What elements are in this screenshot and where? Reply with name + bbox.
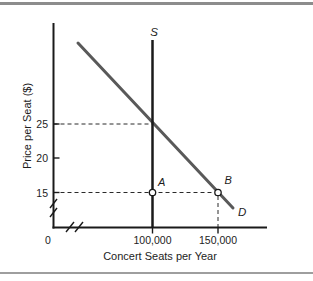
demand-curve-label: D [238,206,246,218]
point-a-marker [149,189,155,195]
point-b-marker [215,189,221,195]
demand-curve [78,43,233,208]
y-tick-label-15: 15 [36,187,48,199]
supply-curve-label: S [150,26,158,38]
x-tick-label-150000: 150,000 [199,234,237,246]
point-a-label: A [157,176,165,188]
supply-demand-chart: 25 20 15 0 100,000 150,000 Price per Sea… [0,0,313,281]
y-tick-label-25: 25 [36,118,48,130]
y-axis-title: Price per Seat ($) [21,83,33,169]
x-axis-title: Concert Seats per Year [103,250,217,262]
y-tick-label-20: 20 [36,152,48,164]
x-tick-label-100000: 100,000 [134,234,172,246]
point-b-label: B [225,174,232,186]
figure-panel: 25 20 15 0 100,000 150,000 Price per Sea… [0,0,313,281]
origin-label: 0 [45,234,51,246]
